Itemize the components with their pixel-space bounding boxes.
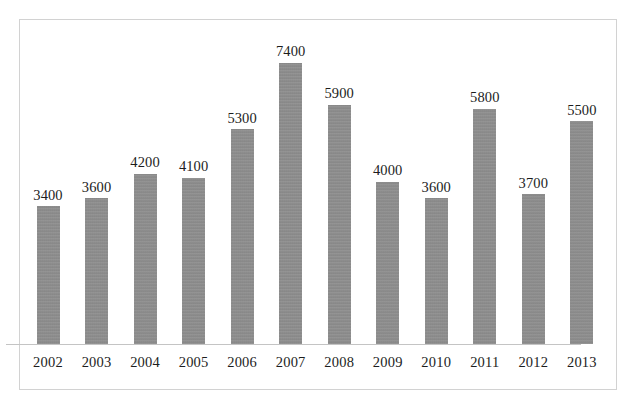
bar-column: 4100: [172, 44, 216, 344]
category-label: 2008: [317, 352, 361, 376]
bar-column: 7400: [269, 44, 313, 344]
bar-column: 5300: [220, 44, 264, 344]
bar-column: 3600: [414, 44, 458, 344]
category-label: 2003: [75, 352, 119, 376]
bar-value-label: 4000: [373, 163, 402, 178]
category-label: 2006: [220, 352, 264, 376]
category-label: 2004: [123, 352, 167, 376]
bar-value-label: 5900: [324, 86, 353, 101]
category-label: 2010: [414, 352, 458, 376]
bars-container: 3400 3600 4200 4100 5300 7400 5900: [26, 44, 604, 344]
bar-chart: 3400 3600 4200 4100 5300 7400 5900: [0, 0, 633, 410]
category-label: 2007: [269, 352, 313, 376]
bar-value-label: 5800: [470, 90, 499, 105]
category-label: 2005: [172, 352, 216, 376]
bar-rect: [328, 105, 351, 344]
bar-rect: [425, 198, 448, 344]
category-label: 2002: [26, 352, 70, 376]
bar-value-label: 3600: [82, 180, 111, 195]
category-labels-container: 2002 2003 2004 2005 2006 2007 2008 2009 …: [26, 352, 604, 376]
category-label: 2009: [366, 352, 410, 376]
category-label: 2012: [511, 352, 555, 376]
bar-rect: [85, 198, 108, 344]
category-axis-line: [6, 344, 581, 345]
bar-rect: [570, 121, 593, 344]
bar-value-label: 4200: [130, 155, 159, 170]
bar-value-label: 3600: [422, 180, 451, 195]
bar-rect: [182, 178, 205, 344]
bar-rect: [522, 194, 545, 344]
bar-column: 3700: [511, 44, 555, 344]
bar-rect: [134, 174, 157, 344]
bar-column: 4200: [123, 44, 167, 344]
bar-column: 5500: [560, 44, 604, 344]
bar-column: 4000: [366, 44, 410, 344]
category-label: 2011: [463, 352, 507, 376]
bar-column: 3400: [26, 44, 70, 344]
bar-column: 3600: [75, 44, 119, 344]
bar-value-label: 3400: [33, 188, 62, 203]
bar-rect: [37, 206, 60, 344]
bar-rect: [231, 129, 254, 344]
bar-rect: [473, 109, 496, 344]
bar-value-label: 5300: [227, 111, 256, 126]
bar-value-label: 4100: [179, 159, 208, 174]
bar-column: 5900: [317, 44, 361, 344]
bar-value-label: 5500: [567, 103, 596, 118]
bar-value-label: 7400: [276, 44, 305, 59]
bar-rect: [376, 182, 399, 344]
bar-value-label: 3700: [519, 176, 548, 191]
bar-rect: [279, 63, 302, 345]
category-label: 2013: [560, 352, 604, 376]
bar-column: 5800: [463, 44, 507, 344]
